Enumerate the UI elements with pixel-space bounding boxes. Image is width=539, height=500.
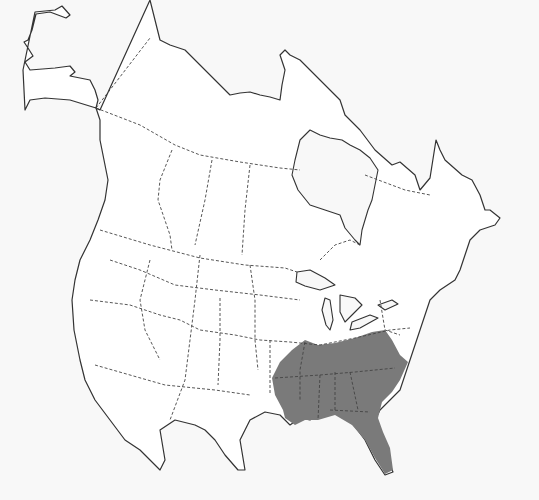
range-map [0, 0, 539, 500]
alaska [23, 6, 98, 110]
north-america-map [0, 0, 539, 500]
